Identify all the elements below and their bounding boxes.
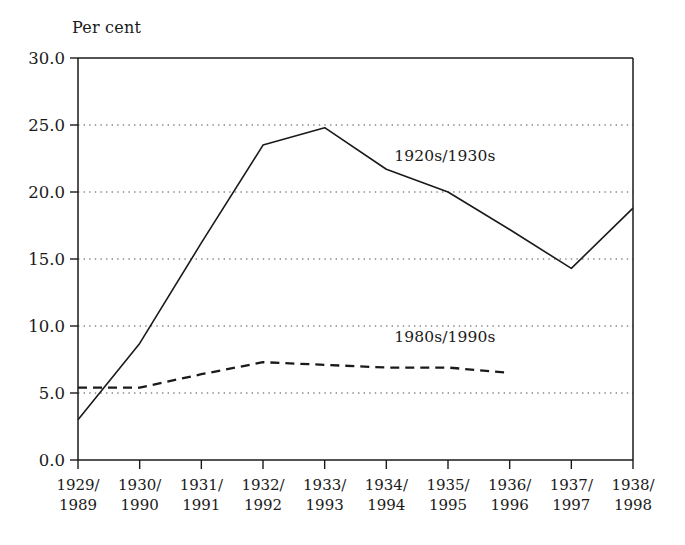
y-axis-tick-label: 5.0 — [39, 384, 65, 403]
x-tick-label-top: 1930/ — [118, 476, 161, 496]
x-axis-tick-label: 1934/1994 — [365, 476, 408, 516]
x-tick-label-bottom: 1992 — [241, 496, 284, 516]
x-axis-tick-label: 1929/1989 — [56, 476, 99, 516]
x-axis-tick-label: 1936/1996 — [488, 476, 531, 516]
x-axis-ticks — [78, 460, 633, 469]
series-line-2 — [78, 362, 510, 387]
x-tick-label-bottom: 1994 — [365, 496, 408, 516]
chart-figure: Per cent 30.025.020.015.010.05.00.0 1929… — [0, 0, 685, 545]
x-tick-label-top: 1934/ — [365, 476, 408, 496]
y-axis-tick-label: 10.0 — [28, 317, 65, 336]
x-tick-label-top: 1931/ — [180, 476, 223, 496]
x-tick-label-bottom: 1990 — [118, 496, 161, 516]
x-tick-label-bottom: 1998 — [611, 496, 654, 516]
x-axis-tick-label: 1938/1998 — [611, 476, 654, 516]
x-axis-tick-label: 1930/1990 — [118, 476, 161, 516]
x-tick-label-top: 1933/ — [303, 476, 346, 496]
x-tick-label-top: 1932/ — [241, 476, 284, 496]
x-tick-label-bottom: 1995 — [426, 496, 469, 516]
x-axis-tick-label: 1932/1992 — [241, 476, 284, 516]
y-axis-title: Per cent — [72, 18, 141, 37]
series-label-2: 1980s/1990s — [394, 328, 495, 346]
x-axis-tick-label: 1931/1991 — [180, 476, 223, 516]
x-tick-label-top: 1935/ — [426, 476, 469, 496]
series-line-1 — [78, 128, 633, 420]
x-tick-label-top: 1929/ — [56, 476, 99, 496]
x-tick-label-bottom: 1993 — [303, 496, 346, 516]
y-axis-tick-label: 20.0 — [28, 183, 65, 202]
x-tick-label-bottom: 1991 — [180, 496, 223, 516]
gridlines — [78, 125, 633, 393]
y-axis-tick-label: 15.0 — [28, 250, 65, 269]
line-chart-plot-area — [0, 0, 685, 545]
y-axis-tick-label: 30.0 — [28, 49, 65, 68]
x-axis-tick-label: 1935/1995 — [426, 476, 469, 516]
x-tick-label-top: 1938/ — [611, 476, 654, 496]
y-axis-ticks — [70, 58, 78, 460]
y-axis-tick-label: 25.0 — [28, 116, 65, 135]
data-series-group — [78, 128, 633, 420]
x-tick-label-bottom: 1989 — [56, 496, 99, 516]
x-tick-label-top: 1937/ — [550, 476, 593, 496]
x-axis-tick-label: 1933/1993 — [303, 476, 346, 516]
series-label-1: 1920s/1930s — [394, 147, 495, 165]
x-tick-label-bottom: 1997 — [550, 496, 593, 516]
x-axis-tick-label: 1937/1997 — [550, 476, 593, 516]
x-tick-label-top: 1936/ — [488, 476, 531, 496]
x-tick-label-bottom: 1996 — [488, 496, 531, 516]
y-axis-tick-label: 0.0 — [39, 451, 65, 470]
